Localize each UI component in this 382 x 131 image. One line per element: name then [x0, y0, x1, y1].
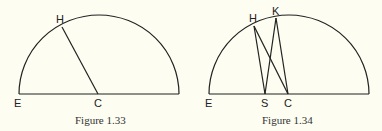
label-h: H [56, 13, 64, 25]
figure-1-33: E C H Figure 1.33 [14, 13, 179, 126]
label-c: C [94, 97, 102, 109]
radius-ch [62, 27, 98, 94]
label-k: K [272, 5, 280, 17]
label-h: H [249, 12, 257, 24]
caption: Figure 1.33 [75, 114, 126, 126]
caption: Figure 1.34 [262, 114, 313, 126]
line-ks [265, 18, 276, 94]
semicircle-arc [19, 15, 179, 94]
label-e: E [205, 97, 212, 109]
figure-1-34: E S C H K Figure 1.34 [205, 5, 369, 126]
label-e: E [14, 97, 21, 109]
label-s: S [261, 97, 268, 109]
semicircle-arc [209, 15, 369, 94]
label-c: C [284, 97, 292, 109]
diagram-canvas: E C H Figure 1.33 E S C H K Figure 1.34 [0, 0, 382, 131]
